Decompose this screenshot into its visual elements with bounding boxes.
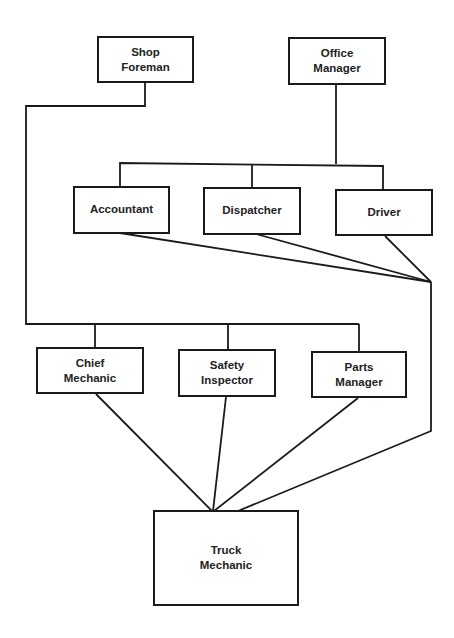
node-label: Driver	[367, 205, 400, 220]
node-chief-mechanic: Chief Mechanic	[36, 347, 144, 394]
node-parts-manager: Parts Manager	[311, 351, 407, 398]
node-label: Manager	[335, 375, 382, 390]
node-label: Dispatcher	[222, 203, 281, 218]
node-label: Chief	[76, 356, 105, 371]
node-accountant: Accountant	[73, 186, 170, 234]
node-label: Mechanic	[200, 558, 252, 573]
node-label: Parts	[345, 360, 374, 375]
node-office-manager: Office Manager	[288, 37, 386, 85]
node-driver: Driver	[335, 189, 433, 236]
node-label: Safety	[210, 358, 245, 373]
node-label: Truck	[211, 543, 242, 558]
node-safety-inspector: Safety Inspector	[178, 349, 276, 397]
node-label: Shop	[131, 45, 160, 60]
connector-safety-inspector-to-truck-mechanic	[213, 397, 226, 511]
node-dispatcher: Dispatcher	[203, 187, 301, 235]
connector-parts-manager-to-truck-mechanic	[214, 398, 358, 511]
node-label: Office	[321, 46, 354, 61]
connector-accountant-to-junction	[120, 233, 431, 282]
connector-chief-mechanic-to-truck-mechanic	[96, 394, 212, 511]
node-truck-mechanic: Truck Mechanic	[153, 510, 299, 606]
node-label: Manager	[313, 61, 360, 76]
node-label: Foreman	[121, 60, 170, 75]
node-shop-foreman: Shop Foreman	[97, 36, 194, 83]
node-label: Accountant	[90, 202, 153, 217]
node-label: Mechanic	[64, 371, 116, 386]
node-label: Inspector	[201, 373, 253, 388]
